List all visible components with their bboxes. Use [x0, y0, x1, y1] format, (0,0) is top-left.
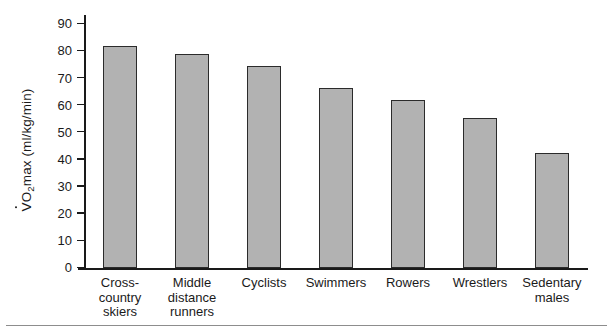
y-axis-tick: 40	[77, 158, 84, 159]
y-axis-tick: 20	[77, 212, 84, 213]
y-axis-tick: 0	[77, 267, 84, 268]
y-axis-tick-label: 60	[58, 98, 72, 111]
x-axis-category-label: Wrestlers	[444, 276, 516, 291]
y-axis-tick: 90	[77, 23, 84, 24]
y-axis-tick-label: 0	[65, 261, 72, 274]
x-axis-line	[78, 268, 588, 270]
y-axis-tick-label: 70	[58, 71, 72, 84]
y-axis-tick-label: 50	[58, 125, 72, 138]
y-axis-tick: 50	[77, 131, 84, 132]
y-axis-tick: 70	[77, 77, 84, 78]
chart-figure: VO2max (ml/kg/min) 0102030405060708090 C…	[0, 0, 613, 335]
y-axis-tick-label: 30	[58, 179, 72, 192]
y-axis-tick: 80	[77, 50, 84, 51]
y-axis-tick: 10	[77, 240, 84, 241]
v-dot-symbol: V	[19, 202, 34, 211]
bar	[247, 66, 281, 268]
x-axis-category-label: Cyclists	[228, 276, 300, 291]
y-axis-line	[84, 15, 86, 268]
x-axis-category-label: Rowers	[372, 276, 444, 291]
x-axis-category-label: Middle distance runners	[156, 276, 228, 320]
figure-bottom-rule	[6, 325, 607, 326]
y-axis-tick-label: 90	[58, 17, 72, 30]
y-axis-title-text: VO2max (ml/kg/min)	[19, 89, 36, 212]
y-axis-tick: 60	[77, 104, 84, 105]
bar	[463, 118, 497, 268]
bar	[535, 153, 569, 268]
bar	[103, 46, 137, 268]
y-axis-tick: 30	[77, 185, 84, 186]
bar	[391, 100, 425, 268]
y-axis-tick-label: 80	[58, 44, 72, 57]
bar	[319, 88, 353, 268]
y-axis-tick-label: 40	[58, 152, 72, 165]
x-axis-category-label: Swimmers	[300, 276, 372, 291]
x-axis-category-label: Sedentary males	[516, 276, 588, 305]
y-axis-title: VO2max (ml/kg/min)	[14, 5, 40, 295]
y-axis-tick-label: 20	[58, 207, 72, 220]
plot-area: 0102030405060708090	[84, 24, 588, 268]
bar	[175, 54, 209, 268]
y-axis-tick-label: 10	[58, 234, 72, 247]
x-axis-category-label: Cross- country skiers	[84, 276, 156, 320]
